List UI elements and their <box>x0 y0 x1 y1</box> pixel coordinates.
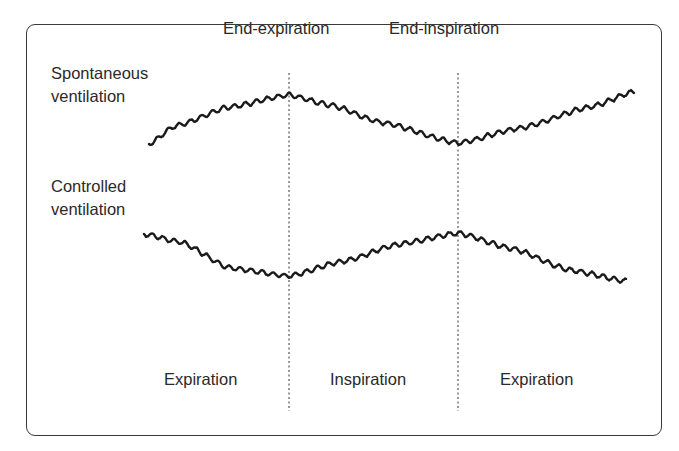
spontaneous-ventilation-trace <box>149 90 634 145</box>
controlled-ventilation-trace <box>144 231 626 282</box>
waveform-plot <box>0 0 679 451</box>
